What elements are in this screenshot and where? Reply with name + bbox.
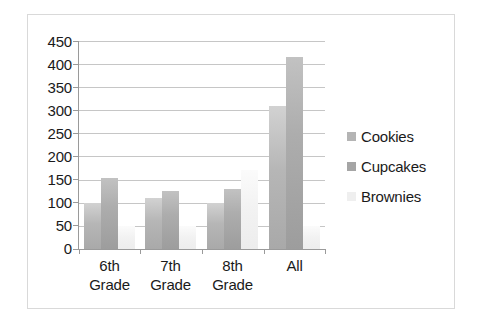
- bar-brownies-6th-grade: [118, 226, 135, 249]
- x-axis-tick: [140, 249, 141, 254]
- x-axis-label-7th-grade: 7th Grade: [140, 256, 201, 294]
- bar-cupcakes-6th-grade: [101, 178, 118, 249]
- x-axis-label-line1: 6th: [79, 256, 140, 275]
- y-axis-tick-label: 350: [28, 80, 72, 95]
- bar-cookies-7th-grade: [145, 198, 162, 249]
- x-axis-label-line1: 8th: [202, 256, 263, 275]
- bar-group-8th-grade: [202, 41, 263, 249]
- legend-item-cupcakes: Cupcakes: [347, 151, 453, 181]
- legend-label-brownies: Brownies: [361, 189, 421, 204]
- x-axis-tick: [264, 249, 265, 254]
- y-axis-tick-label: 0: [28, 241, 72, 256]
- bar-group-6th-grade: [79, 41, 140, 249]
- x-axis-tick: [79, 249, 80, 254]
- bar-cupcakes-7th-grade: [162, 191, 179, 249]
- bar-chart: 450 400 350 300 250 200 150 100 50 0: [0, 0, 481, 327]
- legend-item-brownies: Brownies: [347, 181, 453, 211]
- y-axis-tick-label: 150: [28, 172, 72, 187]
- chart-legend: Cookies Cupcakes Brownies: [347, 121, 453, 211]
- bar-cookies-all: [269, 106, 286, 249]
- bar-cupcakes-all: [286, 57, 303, 249]
- y-axis-tick-label: 300: [28, 103, 72, 118]
- x-axis-label-6th-grade: 6th Grade: [79, 256, 140, 294]
- x-axis-label-line2: Grade: [140, 275, 201, 294]
- plot-area: [79, 41, 325, 249]
- bar-brownies-all: [303, 226, 320, 249]
- bar-cookies-8th-grade: [207, 203, 224, 249]
- x-axis-tick: [325, 249, 326, 254]
- legend-label-cupcakes: Cupcakes: [361, 159, 426, 174]
- bar-group-7th-grade: [140, 41, 201, 249]
- y-axis-tick-label: 200: [28, 149, 72, 164]
- legend-item-cookies: Cookies: [347, 121, 453, 151]
- x-axis-label-line2: Grade: [202, 275, 263, 294]
- legend-swatch-icon: [347, 132, 356, 141]
- bar-brownies-8th-grade: [241, 170, 258, 249]
- bar-group-all: [264, 41, 325, 249]
- x-axis-tick: [202, 249, 203, 254]
- y-axis-tick-label: 250: [28, 126, 72, 141]
- bar-brownies-7th-grade: [179, 226, 196, 249]
- legend-swatch-icon: [347, 162, 356, 171]
- x-axis-label-line1: All: [264, 256, 325, 275]
- x-axis-label-line1: 7th: [140, 256, 201, 275]
- x-axis-labels: 6th Grade 7th Grade 8th Grade All: [79, 256, 325, 304]
- y-axis-labels: 450 400 350 300 250 200 150 100 50 0: [24, 0, 72, 327]
- x-axis-label-line2: Grade: [79, 275, 140, 294]
- y-axis-tick-label: 100: [28, 195, 72, 210]
- x-axis-label-all: All: [264, 256, 325, 275]
- y-axis-tick-label: 50: [28, 218, 72, 233]
- legend-swatch-icon: [347, 192, 356, 201]
- y-axis-tick-label: 400: [28, 57, 72, 72]
- legend-label-cookies: Cookies: [361, 129, 414, 144]
- y-axis-tick-label: 450: [28, 34, 72, 49]
- bar-cookies-6th-grade: [84, 203, 101, 249]
- x-axis-label-8th-grade: 8th Grade: [202, 256, 263, 294]
- bar-cupcakes-8th-grade: [224, 189, 241, 249]
